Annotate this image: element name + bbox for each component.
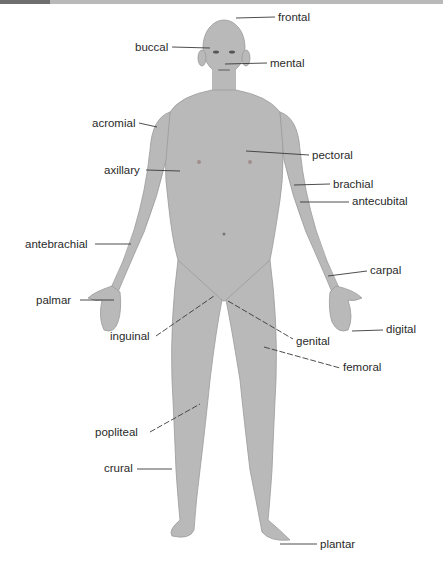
- label-inguinal: inguinal: [110, 330, 150, 343]
- label-digital: digital: [386, 323, 416, 336]
- label-palmar: palmar: [36, 294, 71, 307]
- label-femoral: femoral: [343, 361, 381, 374]
- label-crural: crural: [104, 462, 133, 475]
- label-mental: mental: [270, 57, 305, 70]
- label-frontal: frontal: [278, 11, 310, 24]
- label-plantar: plantar: [320, 538, 355, 551]
- label-axillary: axillary: [104, 164, 140, 177]
- label-carpal: carpal: [370, 264, 401, 277]
- human-body-figure: [0, 0, 443, 576]
- label-buccal: buccal: [135, 41, 168, 54]
- label-genital: genital: [296, 335, 330, 348]
- label-antecubital: antecubital: [352, 195, 408, 208]
- label-pectoral: pectoral: [312, 149, 353, 162]
- label-brachial: brachial: [333, 178, 373, 191]
- head: [203, 20, 245, 74]
- label-antebrachial: antebrachial: [25, 238, 88, 251]
- label-acromial: acromial: [92, 117, 135, 130]
- label-popliteal: popliteal: [95, 426, 138, 439]
